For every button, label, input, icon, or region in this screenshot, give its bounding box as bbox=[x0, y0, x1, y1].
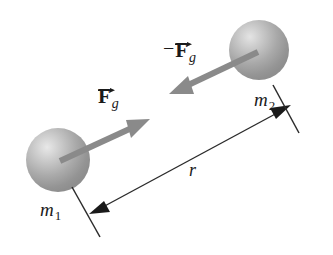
force-subscript-right: g bbox=[189, 50, 196, 65]
force-letter-left: F bbox=[98, 84, 111, 108]
force-symbol-right: Fg bbox=[175, 40, 195, 61]
mass-2-subscript: 2 bbox=[269, 98, 276, 113]
force-letter-right: F bbox=[175, 38, 188, 62]
label-force-right: − Fg bbox=[163, 40, 195, 61]
label-mass-1: m1 bbox=[40, 200, 60, 219]
mass-1-subscript: 1 bbox=[55, 208, 62, 223]
gravitation-diagram: Fg − Fg m1 m2 r bbox=[0, 0, 333, 255]
label-force-left: Fg bbox=[98, 86, 118, 107]
force-symbol-left: Fg bbox=[98, 86, 118, 107]
force-sign-right: − bbox=[163, 37, 174, 59]
sphere-mass-1 bbox=[26, 128, 90, 192]
label-separation: r bbox=[189, 161, 196, 179]
label-mass-2: m2 bbox=[254, 90, 274, 109]
mass-2-letter: m bbox=[254, 89, 268, 110]
force-subscript-left: g bbox=[112, 96, 119, 111]
mass-1-letter: m bbox=[40, 199, 54, 220]
sphere-mass-2 bbox=[229, 20, 289, 80]
